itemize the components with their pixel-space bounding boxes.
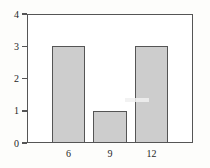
y-axis-tick-mark <box>22 13 27 15</box>
y-axis-tick-label: 2 <box>5 71 19 86</box>
x-axis-tick-label: 6 <box>49 147 89 160</box>
plot-area <box>27 14 193 143</box>
y-axis-tick-mark <box>22 110 27 112</box>
bar <box>93 111 126 143</box>
bar <box>52 46 85 143</box>
y-axis-tick-mark <box>22 78 27 80</box>
bar-chart: 01234 6912 <box>0 0 210 168</box>
x-axis-tick-label: 12 <box>132 147 172 160</box>
y-axis-tick-label: 0 <box>5 136 19 151</box>
bar <box>135 46 168 143</box>
x-axis-tick-label: 9 <box>90 147 130 160</box>
y-axis-tick-mark <box>22 142 27 144</box>
y-axis-tick-label: 3 <box>5 39 19 54</box>
scan-artifact <box>125 98 149 102</box>
y-axis-tick-label: 4 <box>5 7 19 22</box>
y-axis-tick-label: 1 <box>5 103 19 118</box>
y-axis-tick-mark <box>22 46 27 48</box>
